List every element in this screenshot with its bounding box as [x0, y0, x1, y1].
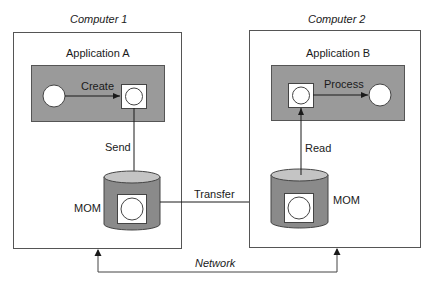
send-label: Send — [105, 142, 131, 153]
application-b-label: Application B — [306, 48, 370, 59]
source-circle-icon — [43, 85, 65, 107]
mom-queue-2 — [271, 169, 328, 228]
network-label: Network — [195, 258, 235, 269]
message-b-icon — [293, 87, 310, 104]
mom-queue-1 — [104, 171, 160, 230]
mom-label-2: MOM — [333, 195, 360, 206]
application-a-label: Application A — [66, 48, 130, 59]
sink-circle-icon — [369, 84, 391, 106]
create-label: Create — [81, 81, 114, 92]
process-label: Process — [324, 79, 364, 90]
message-a-icon — [126, 88, 143, 105]
mom-label-1: MOM — [74, 203, 101, 214]
diagram-canvas — [0, 0, 430, 284]
network-arrow-right-icon — [334, 248, 341, 255]
computer-1-title: Computer 1 — [70, 14, 127, 25]
computer-2-title: Computer 2 — [308, 14, 365, 25]
transfer-label: Transfer — [194, 189, 235, 200]
network-arrow-left-icon — [95, 249, 102, 256]
read-label: Read — [305, 143, 331, 154]
